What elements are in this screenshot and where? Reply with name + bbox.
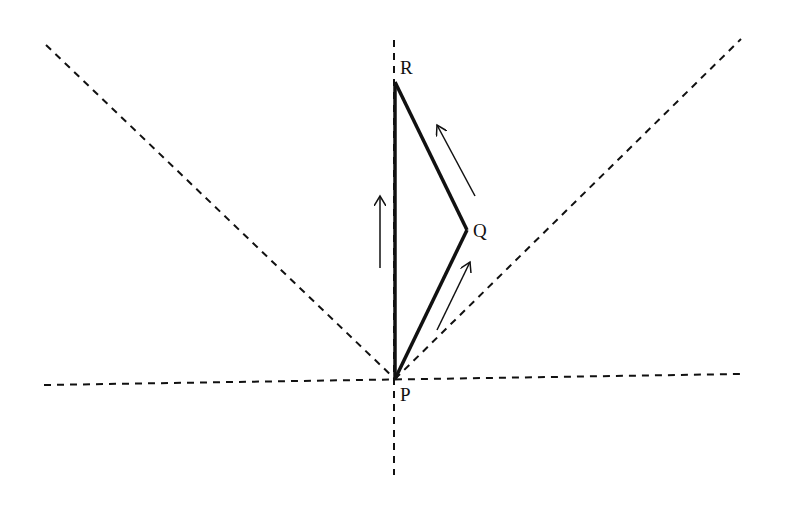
dashed-horizontal-axis bbox=[44, 374, 740, 385]
diagram-canvas: R Q P bbox=[0, 0, 785, 513]
arrow-along-QR-icon bbox=[437, 125, 475, 196]
dashed-right-diagonal bbox=[395, 39, 741, 379]
point-label-r: R bbox=[400, 58, 413, 77]
dashed-left-diagonal bbox=[46, 45, 395, 379]
arrow-along-PQ-icon bbox=[437, 262, 470, 330]
diagram-svg bbox=[0, 0, 785, 513]
segment-qr bbox=[395, 82, 467, 230]
segment-pq bbox=[395, 230, 467, 379]
point-label-p: P bbox=[400, 385, 411, 404]
point-label-q: Q bbox=[473, 221, 487, 240]
